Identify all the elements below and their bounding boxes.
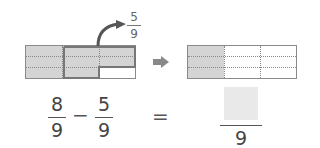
right-fraction-bar <box>187 45 297 79</box>
fraction-term2: 5 9 <box>95 95 113 140</box>
equals-sign: = <box>152 104 169 128</box>
grid-line <box>188 56 296 57</box>
removed-parts-outline <box>26 46 137 80</box>
curved-arrow-icon <box>90 20 130 48</box>
result-denominator: 9 <box>232 129 250 148</box>
removed-fraction-label: 5 9 <box>127 11 141 40</box>
denominator: 9 <box>130 27 138 41</box>
fraction-term1: 8 9 <box>48 95 66 140</box>
grid-line <box>260 46 261 78</box>
fraction-bar <box>220 125 262 126</box>
minus-sign: − <box>72 103 89 127</box>
grid-line <box>224 46 225 78</box>
numerator: 5 <box>130 10 138 24</box>
arrow-right-icon <box>153 56 169 68</box>
shaded-region <box>188 46 224 78</box>
grid-line <box>188 67 296 68</box>
left-fraction-bar <box>25 45 136 79</box>
answer-input-box[interactable] <box>224 87 258 120</box>
